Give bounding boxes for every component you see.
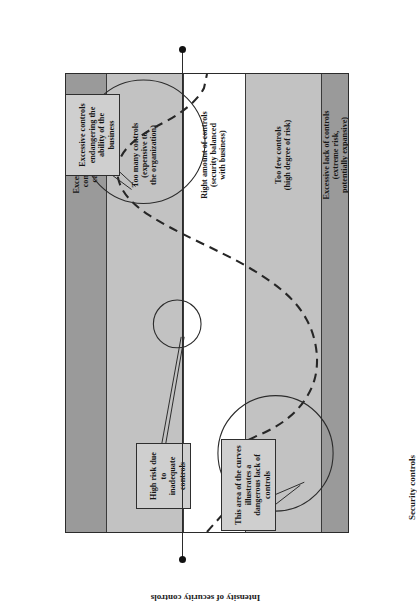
callout-excessive-controls: Excessive controls endangering the abili…: [65, 94, 120, 176]
callout-dangerous-lack: This area of the curves illustrates a da…: [221, 439, 276, 531]
callout-excessive-controls-text: Excessive controls endangering the abili…: [78, 103, 115, 166]
leader-line-high-risk: [161, 336, 184, 446]
rotated-plot-stage: Excessively restrictive controls (compan…: [41, 41, 371, 571]
axis-end-dot-left: [179, 556, 186, 563]
highlight-circle-high-risk: [153, 300, 201, 348]
reference-axis-line: [182, 47, 183, 561]
axis-end-dot-right: [179, 46, 186, 53]
callout-dangerous-lack-text: This area of the curves illustrates a da…: [234, 445, 271, 524]
x-axis-label: Security controls: [407, 455, 417, 520]
y-axis-label: Intensity of security controls: [0, 593, 411, 603]
plot-area: Excessively restrictive controls (compan…: [65, 73, 349, 533]
callout-high-risk-text: High risk due to inadequate controls: [149, 452, 186, 500]
